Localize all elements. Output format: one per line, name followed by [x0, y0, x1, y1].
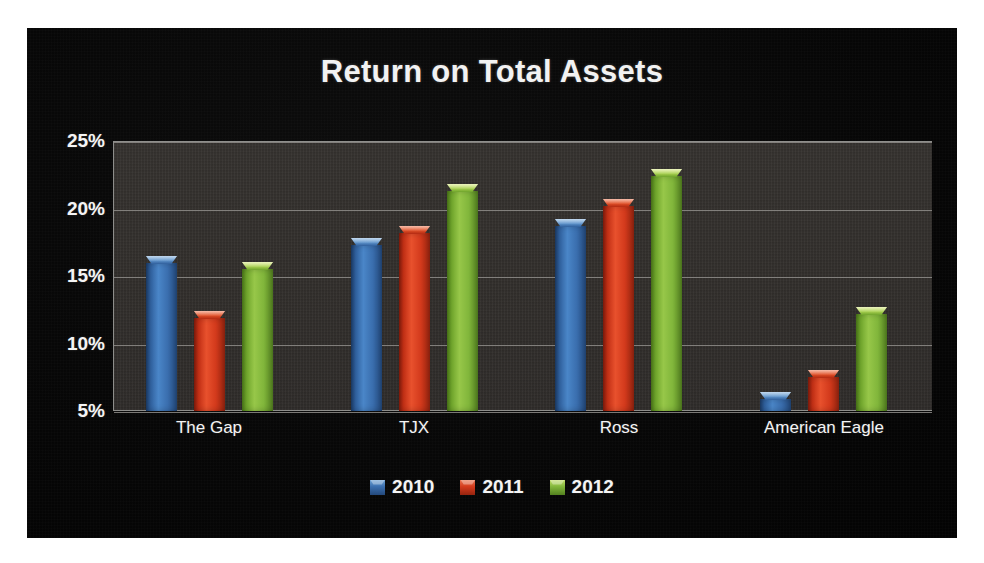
y-axis-tick-label: 5% — [39, 400, 105, 422]
y-axis-tick-label: 10% — [39, 333, 105, 355]
bar-body — [242, 269, 273, 411]
bar-body — [603, 206, 634, 411]
chart-legend: 201020112012 — [27, 476, 957, 498]
bar-body — [399, 233, 430, 411]
bar-2010-the-gap — [146, 256, 177, 411]
bar-body — [856, 314, 887, 411]
bar-body — [555, 226, 586, 411]
legend-swatch-icon — [370, 480, 385, 495]
bar-body — [760, 399, 791, 411]
legend-item-2012[interactable]: 2012 — [550, 476, 614, 498]
legend-swatch-icon — [460, 480, 475, 495]
x-axis-tick-label: The Gap — [176, 418, 242, 438]
chart-canvas: Return on Total Assets 5%10%15%20%25% Th… — [27, 28, 957, 538]
gridline — [114, 412, 932, 413]
bar-2012-the-gap — [242, 262, 273, 411]
chart-page: Return on Total Assets 5%10%15%20%25% Th… — [0, 0, 984, 563]
bar-body — [351, 245, 382, 411]
bar-body — [194, 318, 225, 411]
bar-body — [146, 263, 177, 411]
bar-2010-tjx — [351, 238, 382, 411]
bar-2011-tjx — [399, 226, 430, 411]
legend-swatch-icon — [550, 480, 565, 495]
bar-body — [447, 191, 478, 411]
legend-label: 2011 — [482, 476, 523, 498]
bar-2012-tjx — [447, 184, 478, 411]
chart-title: Return on Total Assets — [27, 54, 957, 90]
legend-item-2011[interactable]: 2011 — [460, 476, 523, 498]
y-axis: 5%10%15%20%25% — [27, 141, 105, 411]
x-axis-tick-label: Ross — [600, 418, 639, 438]
bar-body — [808, 377, 839, 411]
x-axis: The GapTJXRossAmerican Eagle — [113, 418, 932, 448]
legend-label: 2010 — [392, 476, 434, 498]
legend-item-2010[interactable]: 2010 — [370, 476, 434, 498]
bars-layer — [113, 141, 932, 411]
y-axis-tick-label: 25% — [39, 130, 105, 152]
bar-2011-ross — [603, 199, 634, 411]
x-axis-tick-label: American Eagle — [764, 418, 884, 438]
y-axis-tick-label: 20% — [39, 198, 105, 220]
legend-label: 2012 — [572, 476, 614, 498]
bar-body — [651, 176, 682, 411]
bar-2012-american-eagle — [856, 307, 887, 411]
y-axis-tick-label: 15% — [39, 265, 105, 287]
bar-2011-the-gap — [194, 311, 225, 411]
x-axis-tick-label: TJX — [399, 418, 429, 438]
bar-2010-ross — [555, 219, 586, 411]
bar-2012-ross — [651, 169, 682, 411]
bar-2010-american-eagle — [760, 392, 791, 411]
bar-2011-american-eagle — [808, 370, 839, 411]
